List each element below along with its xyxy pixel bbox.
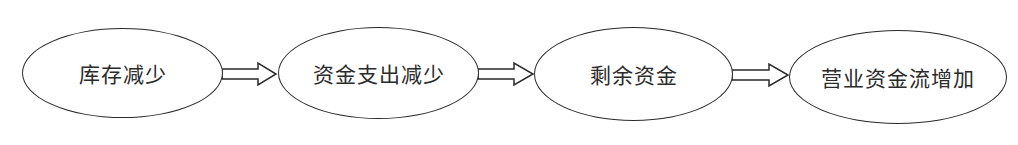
arrow-n3-n4 — [732, 64, 788, 86]
node-surplus-funds: 剩余资金 — [534, 27, 733, 121]
arrow-n2-n3 — [478, 63, 533, 85]
node-capital-expenditure-decrease: 资金支出减少 — [278, 27, 479, 119]
node-label: 库存减少 — [79, 58, 167, 88]
arrow-n1-n2 — [222, 63, 276, 85]
node-label: 剩余资金 — [590, 59, 678, 89]
node-label: 营业资金流增加 — [821, 62, 975, 92]
node-label: 资金支出减少 — [313, 58, 445, 88]
node-inventory-decrease: 库存减少 — [22, 28, 223, 118]
node-operating-cash-flow-increase: 营业资金流增加 — [789, 30, 1007, 124]
